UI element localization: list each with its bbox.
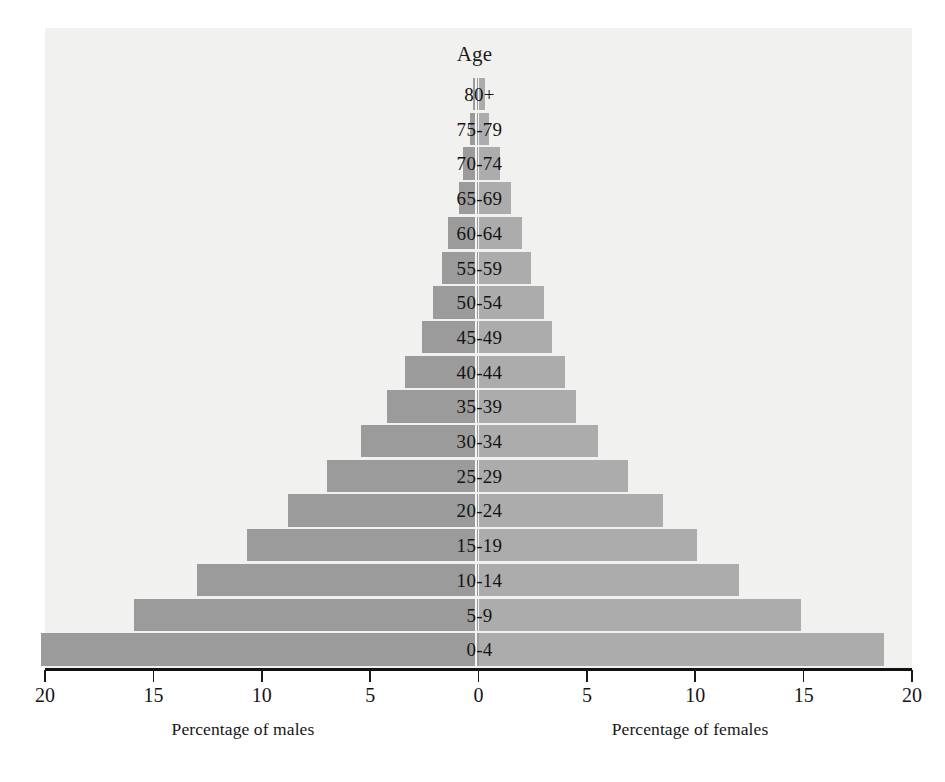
chart-title-age: Age (0, 42, 945, 67)
bar-row: 25-29 (45, 460, 912, 495)
bar-row: 45-49 (45, 321, 912, 356)
bar-male (433, 286, 479, 318)
x-axis-tick-label: 20 (15, 684, 75, 707)
bar-row: 40-44 (45, 356, 912, 391)
x-axis-tick-label: 5 (557, 684, 617, 707)
population-pyramid-chart: Age 80+75-7970-7465-6960-6455-5950-5445-… (0, 0, 945, 782)
bar-female (479, 321, 553, 353)
bar-row: 75-79 (45, 113, 912, 148)
bar-row: 80+ (45, 78, 912, 113)
bar-male (288, 494, 479, 526)
bar-female (479, 113, 490, 145)
bar-female (479, 633, 884, 665)
bar-row: 30-34 (45, 425, 912, 460)
bar-female (479, 494, 663, 526)
x-axis-tick-label: 5 (340, 684, 400, 707)
bars-area: 80+75-7970-7465-6960-6455-5950-5445-4940… (45, 78, 912, 668)
x-axis-tick (911, 670, 913, 682)
bar-male (405, 356, 479, 388)
x-axis-tick (369, 670, 371, 682)
x-axis-tick-label: 15 (123, 684, 183, 707)
chart-title-age-text: Age (457, 42, 493, 66)
x-axis-tick (261, 670, 263, 682)
x-axis-tick-label: 10 (232, 684, 292, 707)
bar-female (479, 78, 486, 110)
bar-male (134, 599, 479, 631)
x-axis-tick (586, 670, 588, 682)
bar-male (41, 633, 479, 665)
bar-female (479, 460, 629, 492)
bar-male (422, 321, 478, 353)
x-axis-tick-label: 15 (774, 684, 834, 707)
bar-female (479, 390, 577, 422)
x-axis-tick (478, 670, 480, 682)
bar-male (361, 425, 478, 457)
x-axis-tick (44, 670, 46, 682)
bar-row: 60-64 (45, 217, 912, 252)
bar-row: 5-9 (45, 599, 912, 634)
bar-male (197, 564, 479, 596)
bar-row: 0-4 (45, 633, 912, 668)
bar-male (247, 529, 479, 561)
bar-female (479, 286, 544, 318)
x-axis-caption-males: Percentage of males (43, 719, 443, 740)
bar-female (479, 147, 501, 179)
bar-row: 15-19 (45, 529, 912, 564)
bar-row: 10-14 (45, 564, 912, 599)
x-axis-tick-label: 10 (665, 684, 725, 707)
bar-female (479, 564, 739, 596)
x-axis-tick-label: 0 (449, 684, 509, 707)
x-axis-tick (694, 670, 696, 682)
bar-female (479, 425, 598, 457)
bar-row: 20-24 (45, 494, 912, 529)
bar-row: 65-69 (45, 182, 912, 217)
bar-row: 70-74 (45, 147, 912, 182)
x-axis-tick (153, 670, 155, 682)
bar-row: 35-39 (45, 390, 912, 425)
bar-male (327, 460, 479, 492)
bar-female (479, 356, 566, 388)
bar-female (479, 252, 531, 284)
bar-female (479, 529, 698, 561)
bar-female (479, 182, 512, 214)
x-axis-tick-label: 20 (882, 684, 942, 707)
bar-male (442, 252, 479, 284)
bar-row: 55-59 (45, 252, 912, 287)
bar-female (479, 217, 522, 249)
bar-row: 50-54 (45, 286, 912, 321)
x-axis-tick (803, 670, 805, 682)
x-axis-caption-females: Percentage of females (490, 719, 890, 740)
bar-male (387, 390, 478, 422)
bar-female (479, 599, 802, 631)
center-axis-line (475, 78, 477, 668)
